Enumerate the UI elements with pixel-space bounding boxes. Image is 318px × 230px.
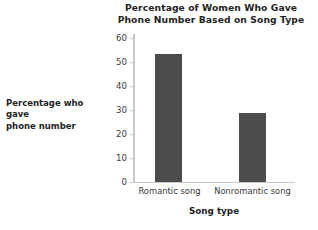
y-tick-label: 40 [116, 81, 127, 90]
bar-romantic-song [155, 54, 182, 182]
x-tick-label-nonromantic-song: Nonromantic song [207, 187, 298, 195]
bar-nonromantic-song [239, 113, 266, 182]
y-tick-label: 60 [116, 33, 127, 42]
y-tick-label: 50 [116, 57, 127, 66]
y-axis-label-line-1: Percentage who gave [6, 98, 102, 121]
chart-title-line-1: Percentage of Women Who Gave [104, 2, 318, 14]
y-axis-line [133, 34, 135, 183]
x-axis-line [133, 182, 295, 184]
y-tick-label: 30 [116, 105, 127, 114]
x-tick-label-romantic-song: Romantic song [124, 187, 215, 195]
y-tick-mark [130, 182, 134, 183]
x-axis-label: Song type [133, 206, 295, 216]
y-axis-label-line-2: phone number [6, 121, 102, 132]
y-tick-mark [130, 62, 134, 63]
y-tick-mark [130, 38, 134, 39]
chart-title-line-2: Phone Number Based on Song Type [104, 14, 318, 26]
y-tick-mark [130, 86, 134, 87]
y-tick-mark [130, 134, 134, 135]
y-axis-label: Percentage who gave phone number [6, 98, 102, 132]
y-tick-label: 20 [116, 129, 127, 138]
bar-chart-figure: Percentage of Women Who Gave Phone Numbe… [0, 0, 318, 230]
plot-area: 0 10 20 30 40 50 60 Romantic so [133, 34, 295, 183]
y-tick-label: 10 [116, 153, 127, 162]
y-tick-label: 0 [122, 177, 127, 186]
y-tick-mark [130, 158, 134, 159]
y-tick-mark [130, 110, 134, 111]
chart-title: Percentage of Women Who Gave Phone Numbe… [104, 2, 318, 26]
